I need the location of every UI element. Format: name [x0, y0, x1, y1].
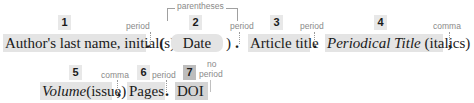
separator-label-period-3: period: [300, 21, 324, 31]
step-number-badge-1: 1: [58, 15, 71, 30]
step-number-badge-5: 5: [69, 65, 82, 80]
volume-issue-field: Volume(issue): [40, 82, 112, 100]
period-punctuation-1: .: [146, 34, 150, 52]
step-number-badge-2: 2: [189, 15, 202, 30]
author-name-field: Author's last name, initial(s): [3, 34, 146, 52]
no-period-label-line2: period: [199, 69, 223, 79]
step-number-badge-7: 7: [183, 65, 196, 80]
no-period-label-line1: no: [207, 59, 216, 69]
parentheses-label: parentheses: [175, 1, 226, 11]
separator-label-comma-4: comma: [433, 21, 461, 31]
open-parenthesis: (: [160, 34, 165, 52]
periodical-title-italic: Periodical Title: [327, 35, 421, 51]
period-punctuation-3: .: [313, 34, 317, 52]
step-number-badge-3: 3: [270, 15, 283, 30]
date-field: Date: [171, 34, 223, 52]
article-title-field: Article title: [248, 34, 310, 52]
period-punctuation-2: .: [235, 34, 239, 52]
separator-label-period-2: period: [230, 21, 254, 31]
step-number-badge-6: 6: [137, 65, 150, 80]
separator-tick-7: [210, 80, 211, 92]
period-punctuation-6: .: [165, 82, 169, 100]
periodical-title-field: Periodical Title (italics): [325, 34, 443, 52]
separator-tick-2: [239, 32, 240, 44]
comma-punctuation-5: ,: [117, 82, 121, 100]
comma-punctuation-4: ,: [448, 34, 452, 52]
separator-label-period-1: period: [126, 21, 150, 31]
pages-field: Pages: [127, 82, 165, 100]
step-number-badge-4: 4: [374, 15, 387, 30]
volume-italic: Volume: [42, 83, 86, 99]
close-parenthesis: ): [226, 34, 231, 52]
separator-label-comma-5: comma: [101, 70, 129, 80]
doi-field: DOI: [175, 82, 208, 100]
separator-tick-1: [150, 32, 151, 44]
separator-label-period-6: period: [152, 70, 176, 80]
